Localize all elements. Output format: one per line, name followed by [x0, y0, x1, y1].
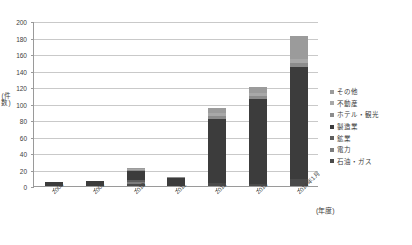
- legend-label: 鉱業: [337, 135, 351, 142]
- y-tick-label: 120: [16, 85, 27, 92]
- legend-color-swatch: [330, 113, 334, 117]
- legend-color-swatch: [330, 101, 334, 105]
- legend-item[interactable]: 電力: [330, 144, 412, 156]
- legend-label: その他: [337, 88, 358, 95]
- bar-segment[interactable]: [290, 67, 308, 179]
- stacked-bar[interactable]: [208, 108, 226, 186]
- legend-color-swatch: [330, 148, 334, 152]
- bar-slot: [156, 22, 197, 186]
- legend-item[interactable]: 鉱業: [330, 132, 412, 144]
- bar-slot: [238, 22, 279, 186]
- stacked-bar[interactable]: [249, 87, 267, 186]
- bar-segment[interactable]: [127, 171, 145, 180]
- y-tick-label: 0: [23, 184, 27, 191]
- y-tick-label: 180: [16, 35, 27, 42]
- legend-label: 電力: [337, 146, 351, 153]
- y-tick-label: 200: [16, 19, 27, 26]
- stacked-bar-chart: (件数) 020406080100120140160180200 2008200…: [0, 0, 412, 245]
- bar-segment[interactable]: [208, 119, 226, 183]
- plot-area: [33, 22, 318, 187]
- x-axis-title: (年度): [316, 205, 335, 215]
- y-tick-label: 20: [20, 167, 27, 174]
- legend-label: 不動産: [337, 100, 358, 107]
- legend-color-swatch: [330, 136, 334, 140]
- legend: その他不動産ホテル・観光製造業鉱業電力石油・ガス: [330, 86, 412, 167]
- bar-slot: [197, 22, 238, 186]
- bar-slot: [75, 22, 116, 186]
- bar-slot: [278, 22, 319, 186]
- legend-color-swatch: [330, 159, 334, 163]
- legend-item[interactable]: その他: [330, 86, 412, 98]
- legend-label: 製造業: [337, 123, 358, 130]
- legend-color-swatch: [330, 90, 334, 94]
- y-tick-label: 100: [16, 101, 27, 108]
- bar-series-group: [34, 22, 318, 186]
- y-axis-tick-labels: 020406080100120140160180200: [0, 22, 31, 188]
- legend-label: ホテル・観光: [337, 111, 379, 118]
- legend-item[interactable]: 石油・ガス: [330, 156, 412, 168]
- bar-segment[interactable]: [290, 36, 308, 59]
- y-tick-label: 140: [16, 68, 27, 75]
- x-axis-tick-labels: 2008200920102011201220132014年1月: [33, 188, 318, 228]
- legend-item[interactable]: 不動産: [330, 98, 412, 110]
- bar-segment[interactable]: [249, 99, 267, 185]
- legend-label: 石油・ガス: [337, 158, 372, 165]
- y-tick-label: 40: [20, 151, 27, 158]
- legend-item[interactable]: ホテル・観光: [330, 109, 412, 121]
- y-tick-label: 160: [16, 52, 27, 59]
- legend-item[interactable]: 製造業: [330, 121, 412, 133]
- stacked-bar[interactable]: [290, 36, 308, 186]
- bar-slot: [34, 22, 75, 186]
- bar-slot: [115, 22, 156, 186]
- y-tick-label: 80: [20, 118, 27, 125]
- legend-color-swatch: [330, 125, 334, 129]
- y-tick-label: 60: [20, 134, 27, 141]
